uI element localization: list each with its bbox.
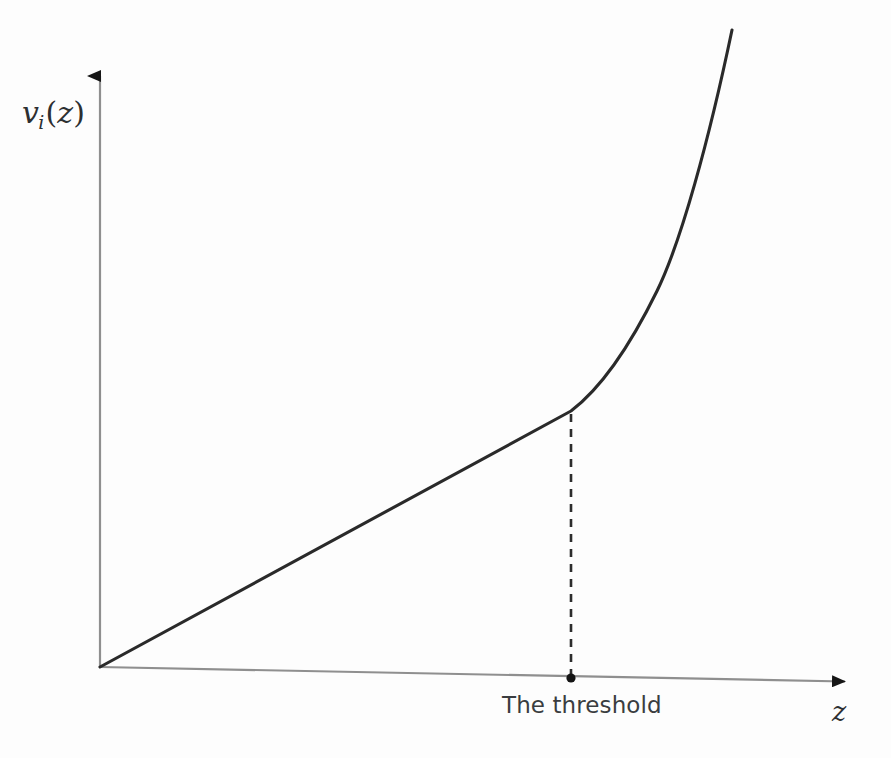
x-axis-label: z: [832, 698, 846, 725]
threshold-annotation-label: The threshold: [502, 694, 662, 717]
y-axis-label-open-paren: (: [45, 95, 57, 130]
value-function-curve: [100, 30, 732, 667]
figure-canvas: vi(z) z The threshold: [0, 0, 891, 758]
plot-svg: [0, 0, 891, 758]
y-axis-label-argument: z: [57, 95, 73, 130]
y-axis-label-subscript: i: [38, 111, 44, 133]
y-axis-label: vi(z): [22, 98, 85, 132]
x-axis-line: [100, 667, 845, 682]
y-axis-label-close-paren: ): [73, 95, 85, 130]
threshold-point-marker: [566, 673, 575, 682]
y-axis-label-symbol: v: [22, 95, 39, 130]
